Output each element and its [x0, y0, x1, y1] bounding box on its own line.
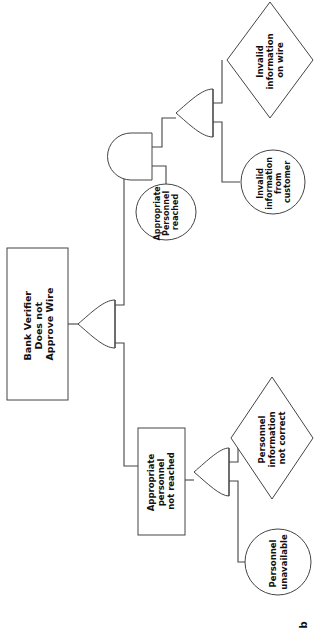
diamond-label-personnel: Personnel information not correct [257, 408, 287, 467]
gate-top-or[interactable] [78, 300, 115, 348]
appropriate-personnel-not-reached-node[interactable]: Appropriate personnel not reached [138, 428, 185, 535]
or-gate-shape-3[interactable] [194, 448, 229, 496]
wire-or-trunk [115, 196, 124, 305]
personnel-information-not-correct-node[interactable]: Personnel information not correct [231, 377, 313, 499]
wire-invalidor-output [213, 60, 222, 103]
invalid-information-on-wire-node[interactable]: Invalid information on wire [227, 2, 313, 118]
invalid-information-from-customer-node[interactable]: Invalid information from customer [241, 150, 305, 214]
or-gate-shape-2[interactable] [176, 89, 213, 137]
or-gate-shape[interactable] [78, 300, 115, 348]
intermediate-event-label: Appropriate personnel not reached [146, 451, 176, 512]
gate-personnel-or[interactable] [194, 448, 229, 496]
wire-or-trunk-lower [115, 343, 138, 466]
figure-label: b [298, 621, 309, 628]
wire-personnelor-input-b [229, 481, 248, 562]
and-gate-shape[interactable] [108, 133, 152, 180]
circle-label-unavailable: Personnel unavailable [268, 534, 289, 590]
wire-invalidor-input-b [213, 122, 240, 182]
appropriate-personnel-reached-node[interactable]: Appropriate Personnel reached [136, 184, 196, 241]
fault-tree-diagram: Bank Verifier Does not Approve Wire Appr… [0, 0, 319, 643]
gate-and[interactable] [108, 133, 152, 180]
personnel-unavailable-node[interactable]: Personnel unavailable [245, 529, 311, 595]
top-event-node[interactable]: Bank Verifier Does not Approve Wire [7, 248, 68, 400]
wire-and-input-upper [152, 118, 176, 147]
gate-invalid-information-or[interactable] [176, 89, 213, 137]
